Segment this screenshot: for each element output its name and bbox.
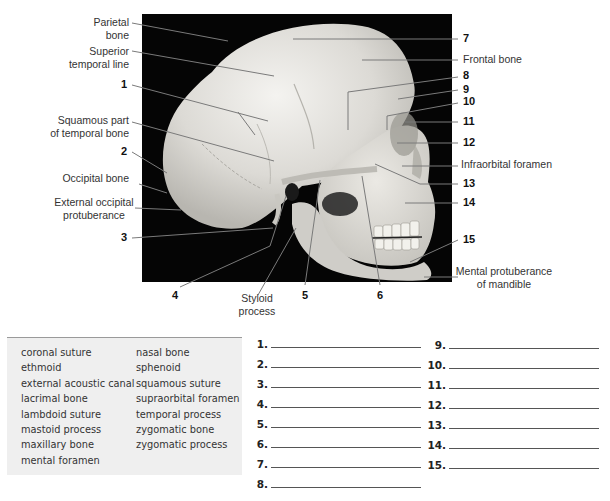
label-parietal-bone: Parietal bone [93, 16, 129, 41]
answer-line[interactable] [271, 446, 421, 448]
label-squamous-part-temporal: Squamous part of temporal bone [50, 114, 129, 139]
answer-number: 8. [254, 478, 268, 490]
word-bank-item: zygomatic process [136, 437, 239, 452]
label-frontal-bone: Frontal bone [463, 53, 522, 66]
number-label-12: 12 [463, 136, 475, 148]
answer-number: 9. [426, 339, 446, 351]
answer-number: 2. [254, 358, 268, 370]
number-label-2: 2 [121, 145, 127, 157]
answer-number: 1. [254, 338, 268, 350]
label-line: Superior [69, 45, 129, 58]
word-bank-item: supraorbital foramen [136, 391, 239, 406]
label-styloid-process: Styloid process [230, 292, 284, 317]
answer-number: 11. [426, 379, 446, 391]
answer-blank-2[interactable]: 2. [254, 356, 421, 370]
answer-line[interactable] [271, 346, 421, 348]
answer-line[interactable] [449, 387, 599, 389]
answer-blank-6[interactable]: 6. [254, 436, 421, 450]
label-mental-protuberance: Mental protuberance of mandible [454, 265, 554, 290]
word-bank-column-2: nasal bone sphenoid squamous suture supr… [136, 345, 239, 453]
word-bank-item: external acoustic canal [21, 376, 135, 391]
word-bank-item: sphenoid [136, 360, 239, 375]
number-label-5: 5 [302, 289, 308, 301]
label-line: Styloid [230, 292, 284, 305]
number-label-7: 7 [463, 32, 469, 44]
answer-blank-5[interactable]: 5. [254, 416, 421, 430]
answer-blank-12[interactable]: 12. [426, 397, 599, 411]
word-bank-item: nasal bone [136, 345, 239, 360]
number-label-4: 4 [172, 289, 178, 301]
answer-blank-7[interactable]: 7. [254, 456, 421, 470]
word-bank-column-1: coronal suture ethmoid external acoustic… [21, 345, 135, 468]
label-line: Mental protuberance [454, 265, 554, 278]
answer-number: 14. [426, 439, 446, 451]
word-bank-item: lacrimal bone [21, 391, 135, 406]
skull-lateral-view-figure: Parietal bone Superior temporal line 1 S… [0, 0, 610, 300]
word-bank-item: mental foramen [21, 453, 135, 468]
number-label-11: 11 [463, 115, 475, 127]
answer-blank-8[interactable]: 8. [254, 476, 421, 490]
number-label-9: 9 [463, 83, 469, 95]
label-line: External occipital [52, 196, 136, 209]
answer-line[interactable] [449, 407, 599, 409]
word-bank: coronal suture ethmoid external acoustic… [7, 337, 242, 475]
answer-number: 10. [426, 359, 446, 371]
answer-blank-13[interactable]: 13. [426, 417, 599, 431]
number-label-15: 15 [463, 233, 475, 245]
answer-line[interactable] [449, 427, 599, 429]
label-line: process [230, 305, 284, 318]
answer-blank-11[interactable]: 11. [426, 377, 599, 391]
label-line: bone [93, 29, 129, 42]
answer-blank-3[interactable]: 3. [254, 376, 421, 390]
word-bank-item: mastoid process [21, 422, 135, 437]
label-line: protuberance [52, 209, 136, 222]
answer-line[interactable] [271, 426, 421, 428]
answer-number: 4. [254, 398, 268, 410]
answer-blank-1[interactable]: 1. [254, 336, 421, 350]
number-label-14: 14 [463, 196, 475, 208]
answer-number: 13. [426, 419, 446, 431]
answer-blank-15[interactable]: 15. [426, 457, 599, 471]
number-label-3: 3 [121, 231, 127, 243]
answer-line[interactable] [271, 366, 421, 368]
answer-line[interactable] [449, 347, 599, 349]
answer-line[interactable] [449, 367, 599, 369]
word-bank-item: temporal process [136, 407, 239, 422]
number-label-1: 1 [121, 78, 127, 90]
answer-line[interactable] [449, 467, 599, 469]
word-bank-item: coronal suture [21, 345, 135, 360]
label-superior-temporal-line: Superior temporal line [69, 45, 129, 70]
answer-number: 12. [426, 399, 446, 411]
label-line: Parietal [93, 16, 129, 29]
answer-line[interactable] [271, 466, 421, 468]
answer-blank-14[interactable]: 14. [426, 437, 599, 451]
label-external-occipital-protuberance: External occipital protuberance [52, 196, 136, 221]
answer-number: 15. [426, 459, 446, 471]
answer-line[interactable] [271, 406, 421, 408]
answer-line[interactable] [271, 486, 421, 488]
word-bank-item: zygomatic bone [136, 422, 239, 437]
number-label-6: 6 [377, 289, 383, 301]
word-bank-item: maxillary bone [21, 437, 135, 452]
number-label-10: 10 [463, 95, 475, 107]
answer-blank-10[interactable]: 10. [426, 357, 599, 371]
label-line: of mandible [454, 278, 554, 291]
number-label-13: 13 [463, 177, 475, 189]
answer-number: 3. [254, 378, 268, 390]
word-bank-item: squamous suture [136, 376, 239, 391]
label-line: Squamous part [50, 114, 129, 127]
answer-line[interactable] [449, 447, 599, 449]
answer-blank-4[interactable]: 4. [254, 396, 421, 410]
answer-blank-9[interactable]: 9. [426, 337, 599, 351]
label-line: of temporal bone [50, 127, 129, 140]
number-label-8: 8 [463, 69, 469, 81]
word-bank-item: ethmoid [21, 360, 135, 375]
label-line: temporal line [69, 58, 129, 71]
answer-number: 7. [254, 458, 268, 470]
answer-number: 5. [254, 418, 268, 430]
word-bank-item: lambdoid suture [21, 407, 135, 422]
answer-line[interactable] [271, 386, 421, 388]
answer-number: 6. [254, 438, 268, 450]
label-infraorbital-foramen: Infraorbital foramen [461, 158, 552, 171]
label-occipital-bone: Occipital bone [62, 172, 129, 185]
